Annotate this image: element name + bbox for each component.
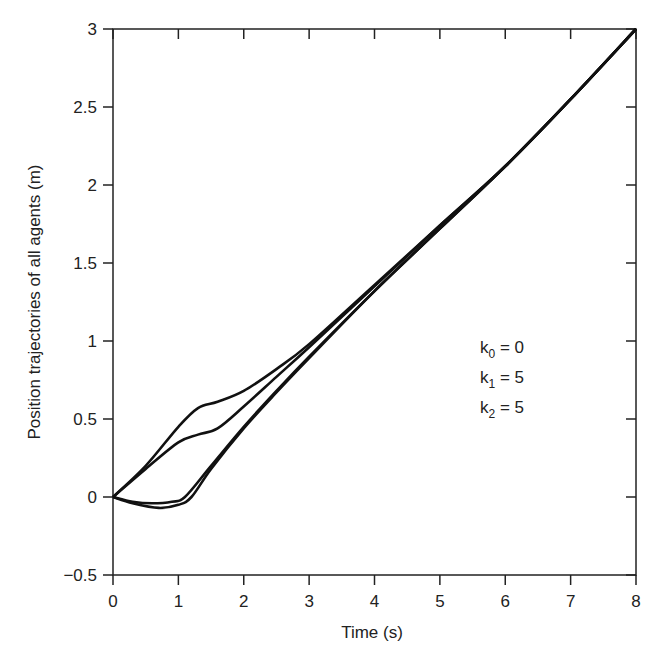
y-axis-label: Position trajectories of all agents (m) bbox=[25, 165, 44, 440]
y-tick-label: 0 bbox=[88, 488, 97, 507]
annotation-k1: k1 = 5 bbox=[480, 368, 524, 391]
y-tick-label: 3 bbox=[88, 20, 97, 39]
annotation-k2: k2 = 5 bbox=[480, 398, 524, 421]
trajectory-line bbox=[113, 29, 636, 497]
data-lines bbox=[113, 29, 636, 508]
parameter-annotation: k0 = 0 k1 = 5 k2 = 5 bbox=[480, 338, 524, 421]
plot-frame bbox=[113, 29, 636, 575]
y-tick-label: 1 bbox=[88, 332, 97, 351]
y-tick-label: 2.5 bbox=[73, 98, 97, 117]
chart: 012345678−0.500.511.522.53 Time (s) Posi… bbox=[0, 0, 656, 651]
annotation-k0: k0 = 0 bbox=[480, 338, 524, 361]
x-tick-label: 1 bbox=[174, 592, 183, 611]
x-tick-label: 7 bbox=[566, 592, 575, 611]
x-tick-label: 2 bbox=[239, 592, 248, 611]
x-axis-label: Time (s) bbox=[341, 623, 403, 642]
x-tick-label: 5 bbox=[435, 592, 444, 611]
x-tick-label: 8 bbox=[631, 592, 640, 611]
trajectory-line bbox=[113, 29, 636, 503]
x-tick-label: 6 bbox=[501, 592, 510, 611]
y-tick-label: 2 bbox=[88, 176, 97, 195]
y-tick-label: 1.5 bbox=[73, 254, 97, 273]
x-tick-label: 0 bbox=[108, 592, 117, 611]
trajectory-line bbox=[113, 29, 636, 497]
y-tick-label: 0.5 bbox=[73, 410, 97, 429]
y-tick-label: −0.5 bbox=[63, 566, 97, 585]
x-tick-label: 4 bbox=[370, 592, 379, 611]
x-tick-label: 3 bbox=[304, 592, 313, 611]
